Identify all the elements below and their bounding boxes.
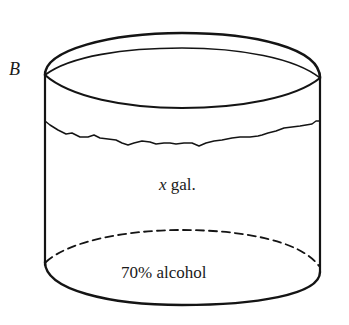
container-label: B [9,59,20,79]
volume-label: x gal. [158,175,196,194]
cylinder-diagram: B x gal. 70% alcohol [0,0,349,325]
top-rim-inner-front [45,75,320,108]
top-rim-inner-back [45,48,320,78]
liquid-surface [45,121,320,146]
contents-label: 70% alcohol [121,263,207,282]
volume-unit: gal. [167,175,196,194]
top-rim-outer [45,33,320,78]
bottom-back-dashed [46,230,319,266]
